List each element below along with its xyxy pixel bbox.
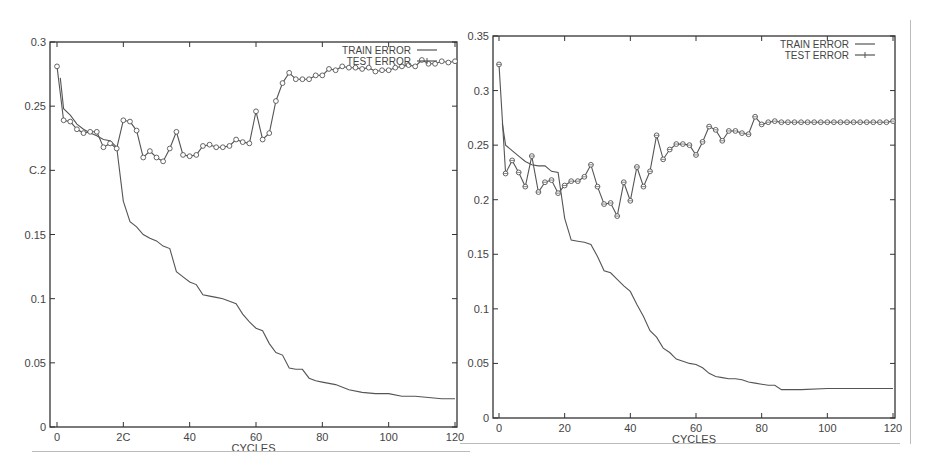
test-error-marker xyxy=(380,68,385,73)
test-error-marker xyxy=(220,145,225,150)
legend-test-label: TEST ERROR xyxy=(785,50,849,61)
test-error-marker xyxy=(167,146,172,151)
y-tick-label: 0.35 xyxy=(468,30,489,42)
y-tick-label: 0.1 xyxy=(474,303,489,315)
test-error-marker xyxy=(181,153,186,158)
test-error-marker xyxy=(340,64,345,69)
test-error-marker xyxy=(114,146,119,151)
x-tick-label: 100 xyxy=(818,422,836,434)
x-tick-label: 120 xyxy=(884,422,902,434)
x-tick-label: 0 xyxy=(54,431,60,443)
test-error-marker xyxy=(247,141,252,146)
test-error-marker xyxy=(360,67,365,72)
y-tick-label: 0 xyxy=(483,412,489,424)
plot-frame xyxy=(493,36,895,418)
test-error-marker xyxy=(274,99,279,104)
plot-frame xyxy=(50,42,457,427)
train-error-line xyxy=(60,78,455,399)
test-error-marker xyxy=(128,119,133,124)
chart-right: 00.050.10.150.20.250.30.3502040608010012… xyxy=(460,0,928,474)
test-error-marker xyxy=(121,118,126,123)
test-error-marker xyxy=(373,69,378,74)
test-error-marker xyxy=(154,155,159,160)
test-error-marker xyxy=(333,68,338,73)
test-error-marker xyxy=(313,73,318,78)
test-error-marker xyxy=(240,140,245,145)
page-border-right xyxy=(910,20,911,444)
y-tick-label: 0.05 xyxy=(468,357,489,369)
test-error-marker xyxy=(320,73,325,78)
test-error-marker xyxy=(88,129,93,134)
test-error-marker xyxy=(55,64,60,69)
test-error-marker xyxy=(307,77,312,82)
test-error-marker xyxy=(61,118,66,123)
test-error-marker xyxy=(234,137,239,142)
test-error-marker xyxy=(453,59,458,64)
chart-left-plot: 00.050.10.15C.20.250.302C406080100120CYC… xyxy=(0,0,470,474)
test-error-marker xyxy=(94,129,99,134)
y-tick-label: 0.25 xyxy=(468,139,489,151)
y-tick-label: 0.2 xyxy=(474,194,489,206)
chart-left: 00.050.10.15C.20.250.302C406080100120CYC… xyxy=(0,0,470,474)
test-error-marker xyxy=(134,128,139,133)
x-axis-label: CYCLES xyxy=(231,442,275,454)
x-tick-label: 40 xyxy=(624,422,636,434)
train-error-line xyxy=(502,123,893,389)
test-error-marker xyxy=(147,149,152,154)
test-error-marker xyxy=(327,67,332,72)
x-tick-label: 100 xyxy=(379,431,397,443)
x-tick-label: 80 xyxy=(316,431,328,443)
legend-train-label: TRAIN ERROR xyxy=(342,45,411,56)
page-rule-left xyxy=(32,451,470,452)
legend-test-label: TEST ERROR xyxy=(347,56,411,67)
test-error-marker xyxy=(194,153,199,158)
test-error-marker xyxy=(446,60,451,65)
test-error-marker xyxy=(433,61,438,66)
test-error-marker xyxy=(293,77,298,82)
legend-train-label: TRAIN ERROR xyxy=(780,39,849,50)
y-tick-label: 0.05 xyxy=(25,357,46,369)
test-error-marker xyxy=(260,137,265,142)
test-error-marker xyxy=(267,131,272,136)
y-tick-label: 0.1 xyxy=(31,293,46,305)
y-tick-label: 0.25 xyxy=(25,100,46,112)
x-tick-label: 40 xyxy=(184,431,196,443)
y-tick-label: 0.3 xyxy=(474,85,489,97)
y-tick-label: 0.15 xyxy=(25,229,46,241)
test-error-marker xyxy=(386,68,391,73)
x-tick-label: 20 xyxy=(559,422,571,434)
test-error-marker xyxy=(201,144,206,149)
test-error-marker xyxy=(287,70,292,75)
test-error-marker xyxy=(101,145,106,150)
y-tick-label: 0.15 xyxy=(468,248,489,260)
test-error-marker xyxy=(207,142,212,147)
test-error-marker xyxy=(419,58,424,63)
chart-right-plot: 00.050.10.150.20.250.30.3502040608010012… xyxy=(460,0,928,474)
y-tick-label: 0 xyxy=(40,421,46,433)
test-error-marker xyxy=(141,155,146,160)
y-tick-label: 0.3 xyxy=(31,36,46,48)
test-error-marker xyxy=(174,129,179,134)
test-error-marker xyxy=(214,145,219,150)
y-tick-label: C.2 xyxy=(29,164,46,176)
test-error-marker xyxy=(280,81,285,86)
test-error-marker xyxy=(300,77,305,82)
x-tick-label: 2C xyxy=(116,431,130,443)
page-rule-right xyxy=(460,443,900,444)
test-error-marker xyxy=(81,131,86,136)
test-error-marker xyxy=(439,59,444,64)
x-tick-label: 80 xyxy=(756,422,768,434)
test-error-marker xyxy=(187,154,192,159)
test-error-marker xyxy=(161,159,166,164)
test-error-marker xyxy=(227,144,232,149)
test-error-marker xyxy=(254,109,259,114)
test-error-marker xyxy=(68,119,73,124)
test-error-marker xyxy=(108,141,113,146)
test-error-marker xyxy=(75,127,80,132)
x-tick-label: 0 xyxy=(496,422,502,434)
test-error-marker xyxy=(413,64,418,69)
